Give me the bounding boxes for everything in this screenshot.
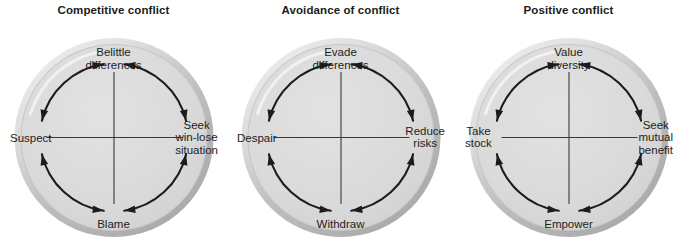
conflict-cycles-figure: Competitive conflictBelittle differences… — [0, 0, 682, 247]
node-label-west: Take stock — [465, 125, 492, 150]
cycle-disc: Value diversitySeek mutual benefitEmpowe… — [467, 36, 670, 239]
node-label-east: Reduce risks — [405, 125, 445, 150]
node-label-north: Belittle differences — [85, 46, 141, 71]
conflict-panel: Competitive conflictBelittle differences… — [0, 0, 227, 247]
node-label-east: Seek win-lose situation — [175, 119, 218, 157]
node-label-north: Evade differences — [312, 46, 368, 71]
node-label-south: Empower — [544, 218, 593, 231]
node-labels: Value diversitySeek mutual benefitEmpowe… — [467, 36, 670, 239]
conflict-panel: Avoidance of conflictEvade differencesRe… — [227, 0, 454, 247]
conflict-panel: Positive conflictValue diversitySeek mut… — [455, 0, 682, 247]
node-label-east: Seek mutual benefit — [638, 119, 673, 157]
node-labels: Belittle differencesSeek win-lose situat… — [12, 36, 215, 239]
panel-title: Competitive conflict — [0, 4, 227, 17]
node-label-south: Withdraw — [317, 218, 365, 231]
cycle-disc: Belittle differencesSeek win-lose situat… — [12, 36, 215, 239]
panel-title: Positive conflict — [455, 4, 682, 17]
node-label-north: Value diversity — [547, 46, 589, 71]
node-label-west: Suspect — [10, 131, 52, 144]
panel-title: Avoidance of conflict — [227, 4, 454, 17]
node-label-south: Blame — [97, 218, 130, 231]
cycle-disc: Evade differencesReduce risksWithdrawDes… — [239, 36, 442, 239]
node-labels: Evade differencesReduce risksWithdrawDes… — [239, 36, 442, 239]
node-label-west: Despair — [237, 131, 277, 144]
